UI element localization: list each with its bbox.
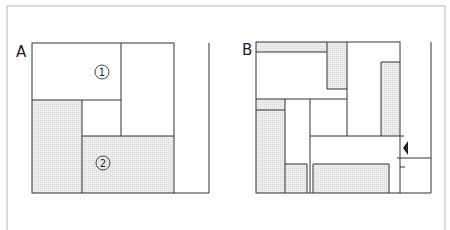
- svg-text:1: 1: [99, 67, 105, 78]
- panel-a-label: A: [16, 43, 27, 61]
- shaded-right-column: [381, 62, 400, 136]
- shaded-bottom-large: [313, 164, 389, 193]
- panel-a: A 1 2: [16, 43, 209, 193]
- panel-b: B: [242, 41, 431, 193]
- floor-plan-diagram: A 1 2 B: [0, 0, 450, 230]
- shaded-bottom-small: [285, 164, 307, 193]
- entrance-arrow-icon: [403, 141, 408, 155]
- shaded-top-strip: [256, 42, 327, 52]
- marker-1: 1: [95, 65, 109, 79]
- shaded-top-middle: [327, 42, 347, 89]
- panel-b-label: B: [242, 41, 252, 59]
- shaded-left-column: [256, 99, 285, 193]
- shaded-room-left: [32, 100, 82, 193]
- svg-text:2: 2: [100, 158, 106, 169]
